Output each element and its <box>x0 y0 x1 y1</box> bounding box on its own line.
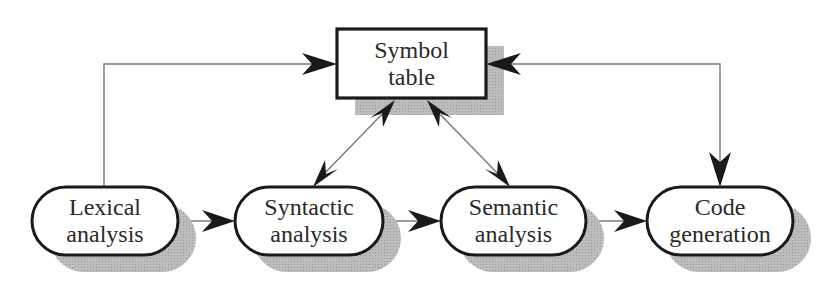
semantic-line2: analysis <box>475 221 552 248</box>
codegen-line1: Code <box>695 194 746 221</box>
syntactic-line2: analysis <box>270 221 347 248</box>
code-generation-label: Code generation <box>647 187 793 255</box>
symbol-table-label: Symbol table <box>337 29 486 98</box>
edge-symbol-table-to-codegen <box>504 64 720 172</box>
edge-syntactic-symbol-table <box>320 106 390 178</box>
symbol-table-line2: table <box>388 64 435 91</box>
syntactic-analysis-label: Syntactic analysis <box>235 187 383 255</box>
codegen-line2: generation <box>669 221 770 248</box>
edge-lexical-to-symbol-table <box>104 64 320 187</box>
semantic-analysis-label: Semantic analysis <box>441 187 586 255</box>
symbol-table-line1: Symbol <box>374 37 449 64</box>
lexical-line2: analysis <box>66 221 143 248</box>
edge-semantic-symbol-table <box>432 106 502 178</box>
syntactic-line1: Syntactic <box>264 194 353 221</box>
lexical-analysis-label: Lexical analysis <box>32 187 178 255</box>
semantic-line1: Semantic <box>469 194 558 221</box>
lexical-line1: Lexical <box>69 194 141 221</box>
